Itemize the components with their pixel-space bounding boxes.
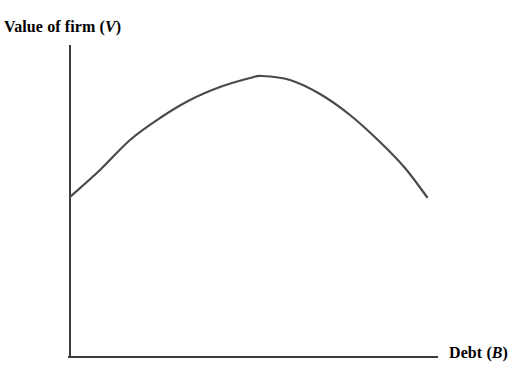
x-axis-label-variable: B bbox=[492, 344, 503, 361]
x-axis-label: Debt (B) bbox=[449, 344, 508, 362]
y-axis-label-text: Value of firm ( bbox=[4, 18, 105, 35]
y-axis-label-paren-close: ) bbox=[116, 18, 121, 35]
x-axis-label-paren-close: ) bbox=[503, 344, 508, 361]
value-of-firm-curve bbox=[70, 76, 427, 197]
x-axis-label-text: Debt ( bbox=[449, 344, 492, 361]
chart-canvas bbox=[0, 0, 530, 376]
y-axis-label: Value of firm (V) bbox=[4, 18, 121, 36]
y-axis-label-variable: V bbox=[105, 18, 116, 35]
chart-figure: Value of firm (V) Debt (B) bbox=[0, 0, 530, 376]
